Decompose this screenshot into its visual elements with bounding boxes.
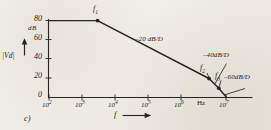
figure-caption: c) (24, 114, 31, 123)
x-axis-title: f (114, 110, 116, 119)
breakpoint-label-f1-sub: 1 (95, 9, 98, 15)
x-tick-base-1e6: 10 (174, 101, 181, 109)
magnitude-response-curve (49, 21, 227, 98)
x-tick-label-1e3: 103 (75, 100, 85, 109)
y-axis-title: |Vd| (2, 52, 14, 60)
breakpoint-label-f3-sub: 3 (217, 76, 220, 82)
x-axis-unit-hz: Hz (197, 100, 205, 107)
breakpoint-dot-f2 (207, 77, 211, 81)
leader-line-slope-60 (224, 89, 245, 96)
x-tick-base-1e3: 10 (75, 101, 82, 109)
x-tick-exp-1e7: 7 (226, 99, 229, 105)
x-tick-base-1e2: 10 (42, 101, 49, 109)
breakpoint-label-f2-sub: 2 (202, 68, 205, 74)
breakpoint-label-f3: f3 (215, 72, 220, 82)
y-axis-title-text: |Vd| (2, 51, 14, 60)
x-tick-label-1e6: 106 (174, 100, 184, 109)
x-tick-base-1e5: 10 (141, 101, 148, 109)
y-axis-unit-db: dB (28, 25, 37, 32)
y-tick-label-80: 80 (26, 15, 42, 23)
x-tick-exp-1e4: 4 (115, 99, 118, 105)
x-tick-label-1e5: 105 (141, 100, 151, 109)
x-tick-label-1e7: 107 (219, 100, 229, 109)
breakpoint-label-f2: f2 (200, 64, 205, 74)
y-tick-label-40: 40 (26, 53, 42, 61)
y-tick-label-20: 20 (26, 72, 42, 80)
bode-plot-figure: 80 60 40 20 0 dB |Vd| 102 103 104 105 10… (0, 0, 271, 130)
x-tick-label-1e2: 102 (42, 100, 52, 109)
x-tick-exp-1e3: 3 (82, 99, 85, 105)
x-tick-base-1e7: 10 (219, 101, 226, 109)
y-tick-label-60: 60 (26, 34, 42, 42)
breakpoint-dot-f3 (217, 86, 221, 90)
x-tick-exp-1e2: 2 (49, 99, 52, 105)
x-tick-label-1e4: 104 (108, 100, 118, 109)
slope-label-minus-60: –60dB/D (224, 74, 250, 81)
leader-line-f2 (207, 73, 209, 77)
y-tick-label-0: 0 (30, 91, 42, 99)
x-tick-exp-1e5: 5 (148, 99, 151, 105)
breakpoint-label-f1: f1 (93, 5, 98, 15)
x-tick-exp-1e6: 6 (181, 99, 184, 105)
slope-label-minus-40: –40dB/D (203, 52, 229, 59)
x-axis-arrow-icon (123, 113, 152, 119)
slope-label-minus-20: –20 dB/D (135, 36, 163, 43)
breakpoint-dot-f1 (96, 19, 100, 23)
